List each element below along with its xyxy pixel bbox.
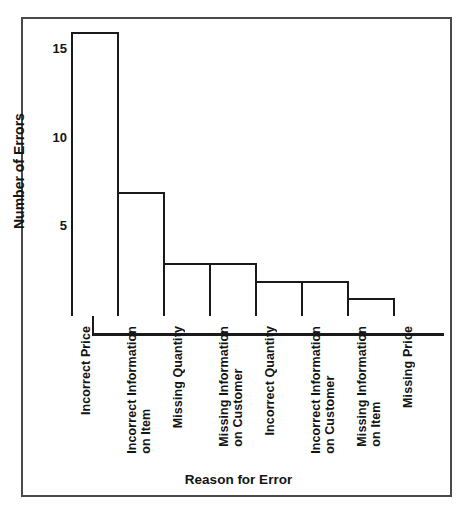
bar	[71, 32, 119, 316]
bar	[163, 263, 211, 316]
y-tick-label: 15	[23, 42, 67, 55]
chart-frame: 51015 Incorrect PriceIncorrect Informati…	[21, 17, 452, 497]
x-category-label: Missing Price	[401, 326, 415, 408]
bar	[255, 281, 303, 317]
y-tick-label: 10	[23, 131, 67, 144]
bar	[347, 298, 395, 316]
x-category-label: Incorrect Information on Item	[125, 326, 153, 454]
bar	[117, 192, 165, 316]
y-tick-label: 5	[23, 219, 67, 232]
x-category-label: Missing Information on Customer	[217, 326, 245, 447]
x-category-label: Incorrect Quantity	[263, 326, 277, 435]
x-category-label: Missing Quantity	[171, 326, 185, 428]
bar	[301, 281, 349, 317]
bar	[209, 263, 257, 316]
x-axis-title: Reason for Error	[23, 472, 454, 487]
x-category-label: Incorrect Price	[79, 326, 93, 415]
x-category-label: Incorrect Information on Customer	[309, 326, 337, 454]
bar-series	[71, 19, 439, 316]
y-axis-title: Number of Errors	[9, 26, 29, 316]
x-category-label: Missing Information on Item	[355, 326, 383, 447]
pareto-chart-figure: 51015 Incorrect PriceIncorrect Informati…	[0, 0, 474, 519]
